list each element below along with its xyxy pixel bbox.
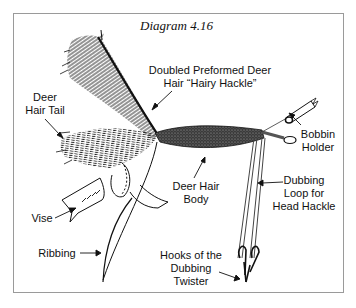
label-deer-hair-body: Deer Hair Body [166, 180, 226, 206]
label-line: Head Hackle [266, 200, 342, 213]
bobbin-holder-drawing [286, 98, 319, 123]
label-dubbing-loop: Dubbing Loop for Head Hackle [266, 174, 342, 213]
label-line: Body [166, 193, 226, 206]
label-line: Dubbing [158, 262, 224, 275]
label-line: Hair “Hairy Hackle” [140, 77, 280, 90]
label-line: Holder [296, 141, 340, 154]
label-hairy-hackle: Doubled Preformed Deer Hair “Hairy Hackl… [140, 64, 280, 90]
label-line: Dubbing [266, 174, 342, 187]
label-deer-hair-tail: Deer Hair Tail [20, 91, 70, 117]
diagram-title: Diagram 4.16 [140, 18, 270, 34]
label-line: Twister [158, 275, 224, 288]
dubbing-loop-drawing [238, 138, 265, 258]
label-hooks-of-dubbing-twister: Hooks of the Dubbing Twister [158, 249, 224, 288]
deer-hair-body-drawing [155, 126, 264, 148]
deer-hair-tail-drawing [56, 128, 158, 168]
label-line: Ribbing [34, 247, 80, 260]
label-line: Deer [20, 91, 70, 104]
label-line: Deer Hair [166, 180, 226, 193]
label-line: Loop for [266, 187, 342, 200]
label-bobbin-holder: Bobbin Holder [296, 128, 340, 154]
label-ribbing: Ribbing [34, 247, 80, 260]
dubbing-twister-drawing [239, 246, 259, 282]
label-line: Bobbin [296, 128, 340, 141]
label-line: Hooks of the [158, 249, 224, 262]
label-line: Doubled Preformed Deer [140, 64, 280, 77]
label-line: Hair Tail [20, 104, 70, 117]
label-line: Vise [26, 212, 58, 225]
label-vise: Vise [26, 212, 58, 225]
